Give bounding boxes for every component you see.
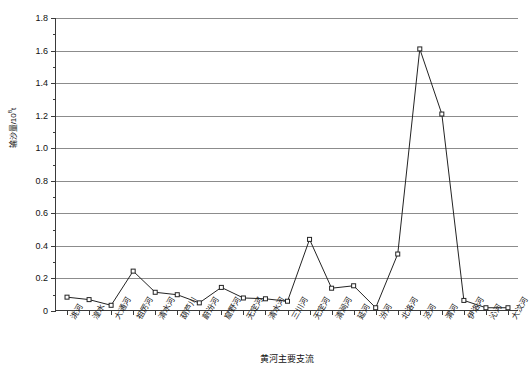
plot-area: 00.20.40.60.81.01.21.41.61.8 洮河湟水大通河祖厉河清… [55,18,518,311]
x-axis-title: 黄河主要支流 [55,352,518,365]
data-point-marker [418,47,422,51]
data-point-marker [197,301,201,305]
data-point-marker [352,284,356,288]
data-point-marker [286,299,290,303]
y-axis-tick-label: 1.4 [35,79,48,88]
data-point-marker [484,306,488,310]
data-point-marker [462,298,466,302]
y-axis-tick-label: 1.2 [35,111,48,120]
y-axis-tick-label: 1.6 [35,46,48,55]
y-axis-tick-label: 0.4 [35,241,48,250]
data-series [56,18,519,311]
data-point-marker [263,297,267,301]
data-point-marker [153,290,157,294]
data-point-marker [219,285,223,289]
y-axis-title-exponent: 8 [7,110,13,113]
y-axis-tick-label: 0 [43,307,48,316]
y-axis-tick-label: 0.6 [35,209,48,218]
y-axis-tick-label: 1.0 [35,144,48,153]
data-point-marker [65,295,69,299]
y-axis-tick [51,311,56,312]
y-axis-tick-label: 0.8 [35,176,48,185]
y-axis-title-main: 输沙量/10 [9,113,18,148]
y-axis-title-unit: t [9,108,18,110]
y-axis-tick-label: 0.2 [35,274,48,283]
data-point-marker [241,296,245,300]
data-point-marker [87,298,91,302]
data-point-marker [396,252,400,256]
y-axis-tick-label: 1.8 [35,14,48,23]
data-point-marker [330,286,334,290]
data-point-marker [506,306,510,310]
y-axis-title: 输沙量/108t [2,83,18,173]
chart-figure: 输沙量/108t 00.20.40.60.81.01.21.41.61.8 洮河… [0,0,532,373]
data-point-marker [374,306,378,310]
data-point-marker [308,237,312,241]
data-point-marker [440,112,444,116]
data-point-marker [131,269,135,273]
data-point-marker [175,293,179,297]
data-point-marker [109,303,113,307]
